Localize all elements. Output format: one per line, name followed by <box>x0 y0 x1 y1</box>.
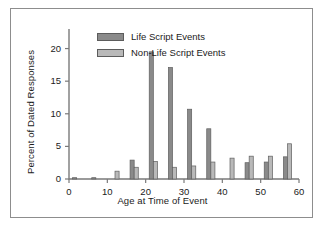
bar <box>153 161 157 179</box>
bar <box>130 160 134 179</box>
x-axis-tick-label: 60 <box>287 186 311 197</box>
bar <box>207 129 211 179</box>
x-axis-tick-label: 0 <box>57 186 81 197</box>
y-axis-tick-label: 5 <box>39 140 61 151</box>
y-axis-tick-label: 15 <box>39 75 61 86</box>
legend-item: Non-Life Script Events <box>97 47 226 58</box>
legend-label: Life Script Events <box>131 31 205 42</box>
y-axis-tick-label: 0 <box>39 173 61 184</box>
bar <box>268 156 272 179</box>
bar <box>230 158 234 179</box>
bar <box>245 163 249 179</box>
bar <box>211 162 215 179</box>
bar <box>168 67 172 179</box>
bar <box>249 156 253 179</box>
x-axis-tick-label: 30 <box>172 186 196 197</box>
y-axis-title: Percent of Dated Responses <box>25 37 36 187</box>
bar <box>134 167 138 179</box>
legend-swatch <box>97 33 124 41</box>
bar <box>192 166 196 179</box>
x-axis-tick-label: 50 <box>249 186 273 197</box>
legend-item: Life Script Events <box>97 31 205 42</box>
bar <box>173 167 177 179</box>
bar <box>283 157 287 179</box>
bar <box>188 109 192 179</box>
bar <box>264 162 268 179</box>
bar <box>73 178 77 179</box>
bar <box>92 178 96 179</box>
y-axis-tick-label: 20 <box>39 43 61 54</box>
figure-frame: Percent of Dated Responses Age at Time o… <box>10 8 313 218</box>
y-axis-tick-label: 10 <box>39 108 61 119</box>
bar <box>149 52 153 179</box>
x-axis-tick-label: 40 <box>210 186 234 197</box>
x-axis-tick-label: 20 <box>134 186 158 197</box>
x-axis-tick-label: 10 <box>95 186 119 197</box>
legend-label: Non-Life Script Events <box>131 47 226 58</box>
bar <box>115 171 119 179</box>
legend-swatch <box>97 49 124 57</box>
bar <box>288 144 292 179</box>
